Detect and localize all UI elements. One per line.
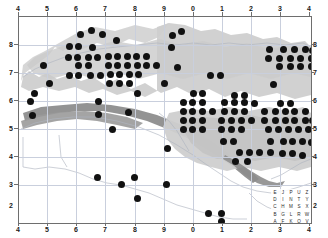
occurrence-dot <box>280 138 287 145</box>
legend-letter-cell: K <box>287 218 295 224</box>
occurrence-dot <box>272 108 279 115</box>
occurrence-dot <box>228 117 235 124</box>
occurrence-dot <box>261 108 268 115</box>
occurrence-dot <box>77 31 84 38</box>
occurrence-dot <box>280 46 287 53</box>
occurrence-dot <box>116 80 123 87</box>
axis-right-label: 6 <box>313 97 321 104</box>
occurrence-dot <box>89 44 96 51</box>
occurrence-dot <box>287 63 294 70</box>
occurrence-dot <box>308 139 312 146</box>
occurrence-dot <box>267 149 274 156</box>
occurrence-dot <box>244 158 251 165</box>
occurrence-dot <box>287 55 294 62</box>
axis-bottom-label: 1 <box>217 226 227 233</box>
occurrence-dot <box>169 32 176 39</box>
occurrence-dot <box>221 99 228 106</box>
axis-left-label: 3 <box>5 181 13 188</box>
occurrence-dot <box>199 90 206 97</box>
occurrence-dot <box>218 218 225 224</box>
occurrence-dot <box>143 53 150 60</box>
legend-letter-cell: L <box>287 211 295 218</box>
occurrence-dot <box>256 149 263 156</box>
legend-letter-cell: T <box>295 196 303 203</box>
legend-letter-cell: G <box>279 211 287 218</box>
occurrence-dot <box>75 43 82 50</box>
occurrence-dot <box>309 47 312 54</box>
occurrence-dot <box>265 55 272 62</box>
occurrence-dot <box>267 138 274 145</box>
occurrence-dot <box>291 46 298 53</box>
legend-letter-cell: H <box>279 203 287 210</box>
occurrence-dot <box>74 54 81 61</box>
legend-letter-cell: I <box>279 196 287 203</box>
occurrence-dot <box>88 27 95 34</box>
occurrence-dot <box>230 138 237 145</box>
axis-top-label: 9 <box>159 5 169 12</box>
axis-bottom-label: 5 <box>42 226 52 233</box>
occurrence-dot <box>134 62 141 69</box>
occurrence-dot <box>305 126 312 133</box>
axis-top-label: 5 <box>42 5 52 12</box>
occurrence-dot <box>180 126 187 133</box>
occurrence-dot <box>308 55 313 62</box>
occurrence-dot <box>131 174 138 181</box>
occurrence-dot <box>85 62 92 69</box>
occurrence-dot <box>107 71 114 78</box>
legend-letter-cell: C <box>271 203 279 210</box>
occurrence-dot <box>95 111 102 118</box>
axis-bottom-label: 2 <box>246 226 256 233</box>
legend-letter-cell: W <box>303 211 311 218</box>
occurrence-dot <box>241 99 248 106</box>
occurrence-dot <box>302 46 309 53</box>
occurrence-dot <box>261 117 268 124</box>
occurrence-dot <box>189 108 196 115</box>
occurrence-dot <box>272 117 279 124</box>
occurrence-dot <box>199 117 206 124</box>
occurrence-dot <box>99 31 106 38</box>
axis-bottom-label: 3 <box>275 226 285 233</box>
plot-area: EJPUZDINTYCHMSXBGLRWAFKQV <box>18 16 312 224</box>
axis-right-label: 8 <box>313 41 321 48</box>
occurrence-dot <box>220 138 227 145</box>
occurrence-dot <box>161 80 168 87</box>
occurrence-dot <box>189 117 196 124</box>
occurrence-dot <box>207 72 214 79</box>
occurrence-dot <box>295 126 302 133</box>
occurrence-dot <box>168 44 175 51</box>
axis-top-label: 2 <box>246 5 256 12</box>
occurrence-dot <box>231 99 238 106</box>
occurrence-dot <box>299 152 306 159</box>
legend-letter-cell: D <box>271 196 279 203</box>
occurrence-dot <box>174 64 181 71</box>
occurrence-dot <box>94 54 101 61</box>
axis-left-label: 2 <box>5 202 13 209</box>
occurrence-dot <box>309 117 312 124</box>
occurrence-dot <box>297 63 304 70</box>
occurrence-dot <box>95 98 102 105</box>
occurrence-dot <box>164 145 171 152</box>
occurrence-dot <box>270 81 277 88</box>
legend-letter-cell: V <box>303 218 311 224</box>
legend-letter-cell: X <box>303 203 311 210</box>
axis-right-label: 3 <box>313 181 321 188</box>
occurrence-dot <box>199 108 206 115</box>
occurrence-dot <box>302 117 309 124</box>
occurrence-dot <box>279 150 286 157</box>
axis-bottom-label: 6 <box>71 226 81 233</box>
occurrence-dot <box>297 55 304 62</box>
occurrence-dot <box>232 158 239 165</box>
utm-distribution-map: 4 5 6 7 8 9 0 1 2 3 4 4 5 6 7 8 9 0 1 2 … <box>0 0 328 238</box>
occurrence-dot <box>287 100 294 107</box>
occurrence-dot <box>124 62 131 69</box>
occurrence-dot <box>126 80 133 87</box>
occurrence-dot <box>289 138 296 145</box>
occurrence-dot <box>218 117 225 124</box>
occurrence-dot <box>75 62 82 69</box>
axis-top-label: 4 <box>304 5 314 12</box>
axis-top-label: 1 <box>217 5 227 12</box>
legend-letter-cell: P <box>287 189 295 196</box>
occurrence-dot <box>285 126 292 133</box>
occurrence-dot <box>163 181 170 188</box>
occurrence-dot <box>109 126 116 133</box>
